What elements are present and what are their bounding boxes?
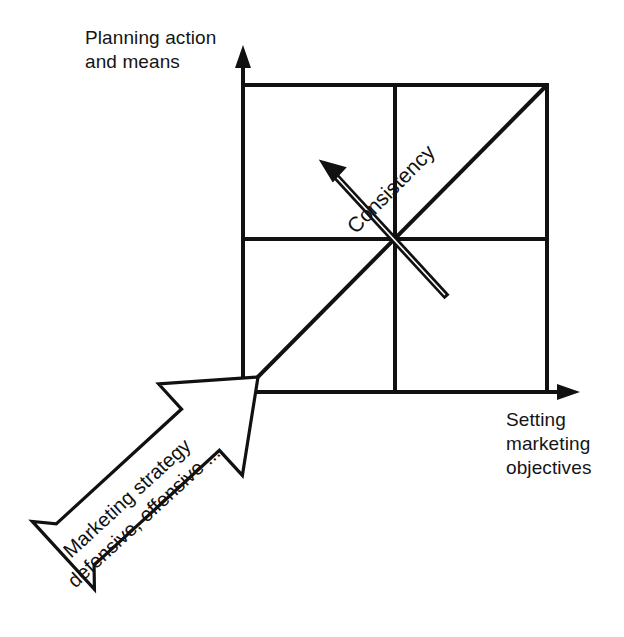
consistency-label-group: Consistency bbox=[342, 140, 439, 238]
consistency-label: Consistency bbox=[342, 140, 439, 238]
x-axis-arrowhead bbox=[557, 384, 580, 400]
diagram-graphic: Consistency Marketing strategy defensive… bbox=[0, 0, 624, 637]
diagram-canvas: Consistency Marketing strategy defensive… bbox=[0, 0, 624, 637]
y-axis-label: Planning action and means bbox=[85, 26, 216, 74]
y-axis-arrowhead bbox=[235, 45, 251, 68]
x-axis-label: Setting marketing objectives bbox=[506, 408, 592, 480]
marketing-strategy-callout: Marketing strategy defensive, offensive … bbox=[21, 331, 299, 601]
